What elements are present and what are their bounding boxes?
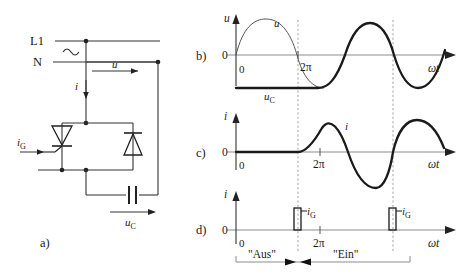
panel-d-label: d): [196, 223, 206, 237]
label-u: u: [112, 58, 118, 70]
panel-b-curve-u-thin: [236, 19, 324, 88]
panel-c-zero-label: 0: [222, 146, 228, 158]
panel-d-zero-label: 0: [222, 224, 228, 236]
panel-b-tick-2pi-label: 2π: [300, 61, 312, 73]
panel-a-circuit: L1 N u i: [17, 34, 160, 250]
panel-b-x-axis-arrow: [445, 51, 456, 59]
panel-b-curve-uc-label: uC: [264, 90, 275, 105]
figure-root: L1 N u i: [0, 0, 474, 275]
panel-d-region-arrow-right: [300, 259, 311, 266]
panel-c-origin-label: 0: [239, 159, 245, 171]
panel-c-x-axis-arrow: [445, 148, 456, 156]
panel-b: u 0 0 2π u uC ωt b): [196, 12, 456, 105]
panel-d-region-off-label: "Aus": [248, 248, 276, 260]
panel-b-y-label: u: [224, 12, 230, 24]
terminal-l1-label: L1: [30, 34, 44, 48]
panel-d-region-on-label: "Ein": [333, 248, 358, 260]
panel-d-gate-pulse-2: [389, 208, 396, 230]
panel-d-y-label: i: [224, 188, 227, 200]
thyristor-gate-lead: [55, 146, 62, 152]
panel-d-origin-label: 0: [239, 237, 245, 249]
panel-c-tick-2pi-label: 2π: [313, 158, 325, 170]
label-uc: uC: [125, 216, 136, 231]
panel-b-y-axis-arrow: [232, 14, 239, 24]
panel-c-y-axis-arrow: [232, 113, 239, 123]
panel-a-label: a): [40, 236, 50, 250]
thyristor-symbol: [40, 126, 72, 152]
panel-c-curve-i: [236, 120, 444, 188]
label-ig: iG: [17, 136, 26, 151]
node-dot-l1: [84, 39, 89, 44]
panel-d: i 0 0 2π iG iG ωt d) "Aus" "Ein": [196, 188, 456, 266]
terminal-n-label: N: [33, 55, 42, 69]
capacitor-symbol: [129, 186, 136, 204]
panel-c-curve-i-label: i: [345, 120, 348, 132]
panel-b-x-label: ωt: [428, 62, 440, 74]
ac-source-icon: [63, 49, 79, 55]
arrow-uc-head: [148, 209, 156, 215]
panel-c: i 0 0 2π i ωt c): [196, 110, 456, 188]
node-dot-bridge-bottom-left: [60, 168, 65, 173]
arrow-ig-head: [37, 149, 44, 155]
panel-c-label: c): [196, 146, 206, 160]
panel-c-x-label: ωt: [428, 158, 440, 170]
panel-c-y-label: i: [224, 110, 227, 122]
panel-d-x-axis-arrow: [445, 226, 456, 234]
panel-b-zero-label: 0: [222, 49, 228, 61]
panel-d-y-axis-arrow: [232, 191, 239, 201]
panel-d-pulse-2-label: iG: [402, 205, 411, 220]
panel-b-curve-u-label: u: [274, 17, 280, 29]
label-i: i: [75, 80, 78, 92]
arrow-u-head: [131, 68, 138, 74]
arrow-i-head: [83, 92, 89, 99]
panel-d-region-arrow-left: [285, 259, 296, 266]
panel-d-pulse-1-label: iG: [307, 205, 316, 220]
panel-b-origin-label: 0: [239, 63, 245, 75]
panel-b-label: b): [196, 49, 206, 63]
panel-d-x-label: ωt: [428, 237, 440, 249]
panel-d-gate-pulse-1: [294, 208, 301, 230]
panel-d-tick-2pi-label: 2π: [313, 237, 325, 249]
